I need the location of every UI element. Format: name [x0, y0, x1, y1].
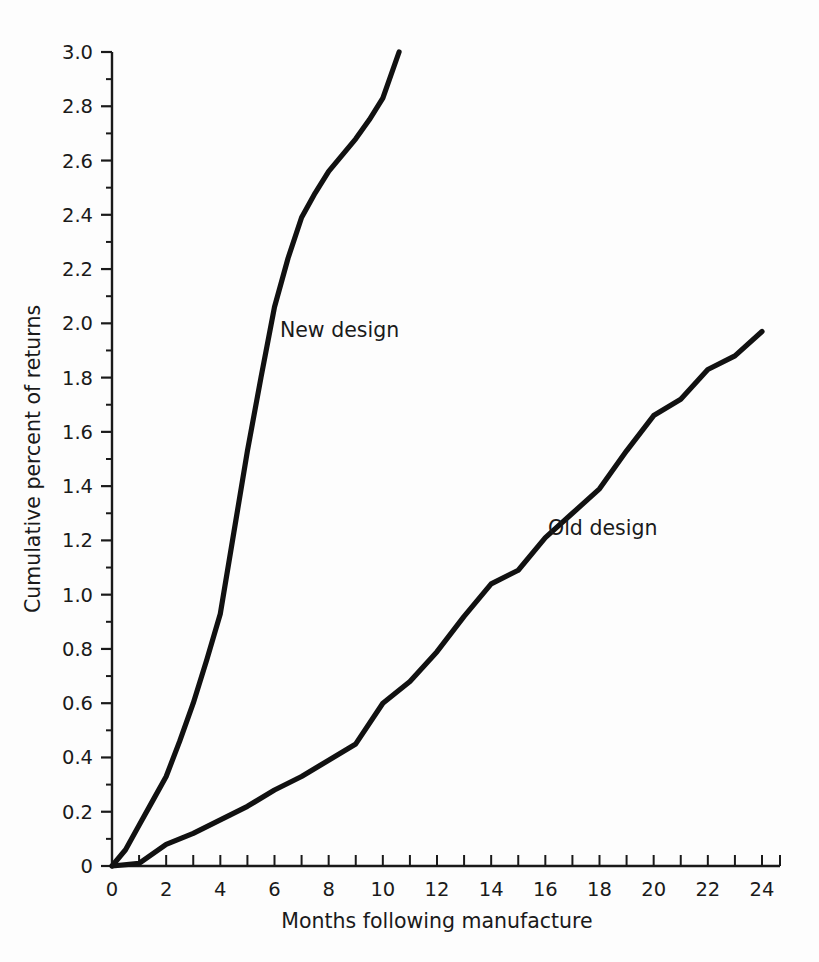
- x-axis-tick-label: 24: [750, 878, 775, 901]
- returns-line-chart: 00.20.40.60.81.01.21.41.61.82.02.22.42.6…: [0, 0, 819, 962]
- y-axis-tick-label: 1.4: [62, 475, 93, 498]
- x-axis-tick-label: 8: [322, 878, 334, 901]
- y-axis-tick-label: 2.8: [62, 95, 93, 118]
- x-axis-tick-label: 18: [587, 878, 612, 901]
- y-axis-tick-label: 1.8: [62, 367, 93, 390]
- y-axis-tick-label: 0.2: [62, 801, 93, 824]
- y-axis-title: Cumulative percent of returns: [21, 305, 45, 613]
- x-axis-tick-label: 12: [425, 878, 450, 901]
- x-axis-tick-label: 20: [641, 878, 666, 901]
- chart-background: [0, 0, 819, 962]
- series-label: New design: [280, 318, 399, 342]
- x-axis-tick-label: 6: [268, 878, 280, 901]
- x-axis-tick-label: 0: [106, 878, 118, 901]
- x-axis-tick-label: 4: [214, 878, 226, 901]
- x-axis-tick-label: 22: [695, 878, 720, 901]
- x-axis-tick-label: 2: [160, 878, 172, 901]
- x-axis-tick-label: 10: [370, 878, 395, 901]
- y-axis-tick-label: 3.0: [62, 41, 93, 64]
- x-axis-tick-label: 16: [533, 878, 558, 901]
- y-axis-tick-label: 0: [81, 855, 93, 878]
- y-axis-tick-label: 1.6: [62, 421, 93, 444]
- y-axis-tick-label: 1.2: [62, 529, 93, 552]
- y-axis-tick-label: 0.8: [62, 638, 93, 661]
- y-axis-tick-label: 1.0: [62, 584, 93, 607]
- y-axis-tick-label: 2.6: [62, 150, 93, 173]
- x-axis-tick-label: 14: [479, 878, 504, 901]
- y-axis-tick-label: 2.4: [62, 204, 93, 227]
- series-label: Old design: [548, 516, 657, 540]
- x-axis-title: Months following manufacture: [281, 909, 592, 933]
- chart-page: 00.20.40.60.81.01.21.41.61.82.02.22.42.6…: [0, 0, 819, 962]
- y-axis-tick-label: 2.0: [62, 312, 93, 335]
- y-axis-tick-label: 0.4: [62, 746, 93, 769]
- y-axis-tick-label: 0.6: [62, 692, 93, 715]
- y-axis-tick-label: 2.2: [62, 258, 93, 281]
